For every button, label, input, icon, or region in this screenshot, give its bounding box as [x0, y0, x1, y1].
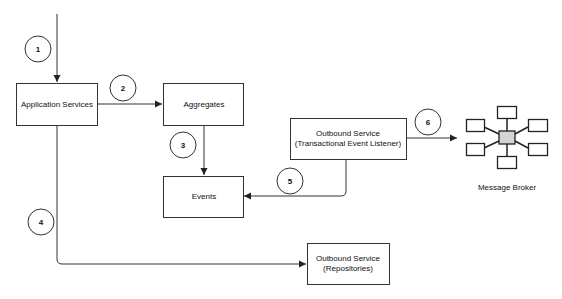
step-badge-3: 3	[170, 132, 196, 158]
node-label-line2: (Transactional Event Listener)	[295, 139, 402, 148]
svg-text:3: 3	[181, 141, 186, 150]
node-outbound-repositories: Outbound Service (Repositories)	[308, 244, 390, 285]
step-badge-1: 1	[25, 36, 51, 62]
node-application-services: Application Services	[17, 84, 98, 126]
architecture-diagram: Application Services Aggregates Events O…	[0, 0, 562, 299]
svg-text:2: 2	[121, 84, 126, 93]
svg-text:5: 5	[288, 177, 293, 186]
message-broker-label: Message Broker	[478, 183, 537, 192]
step-badge-5: 5	[277, 168, 303, 194]
svg-text:4: 4	[39, 218, 44, 227]
node-outbound-listener: Outbound Service (Transactional Event Li…	[291, 119, 407, 160]
node-label: Application Services	[21, 100, 93, 109]
node-events: Events	[164, 177, 244, 218]
step-badge-4: 4	[28, 209, 54, 235]
svg-text:1: 1	[36, 45, 41, 54]
svg-text:6: 6	[426, 118, 431, 127]
node-label-line2: (Repositories)	[323, 264, 373, 273]
step-badge-6: 6	[415, 109, 441, 135]
message-broker-icon	[467, 107, 548, 169]
node-aggregates: Aggregates	[164, 84, 244, 126]
step-badge-2: 2	[110, 75, 136, 101]
node-label: Events	[192, 192, 216, 201]
node-label: Aggregates	[184, 100, 225, 109]
node-label-line1: Outbound Service	[316, 129, 381, 138]
node-label-line1: Outbound Service	[316, 254, 381, 263]
